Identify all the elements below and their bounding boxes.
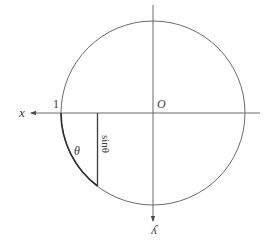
origin-label: O	[157, 97, 166, 111]
theta-label: θ	[74, 144, 80, 158]
sin-theta-label: sinθ	[100, 135, 112, 153]
y-axis-label: y	[151, 225, 159, 240]
unit-circle-diagram: x 1 O θ sinθ y	[0, 0, 276, 242]
x-axis-label: x	[18, 105, 25, 120]
one-label: 1	[53, 97, 59, 111]
